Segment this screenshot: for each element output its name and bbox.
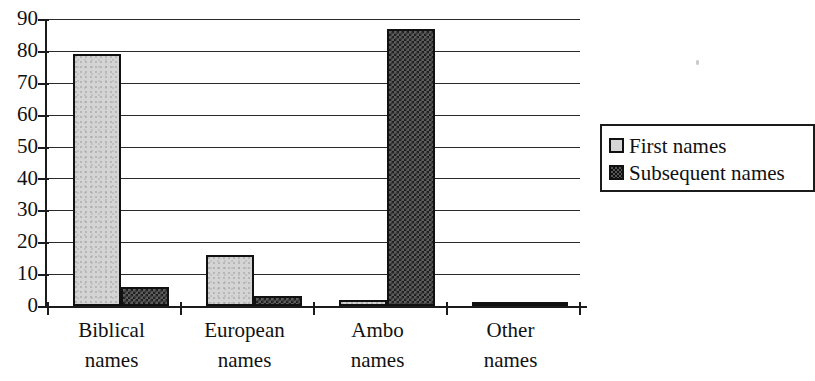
- y-tick-label: 30: [2, 199, 38, 220]
- y-tick-label: 10: [2, 263, 38, 284]
- legend-entry-subsequent-names: Subsequent names: [609, 159, 813, 186]
- scan-artifact: [696, 60, 699, 65]
- legend-swatch-subsequent-names-icon: [609, 165, 624, 180]
- y-tick-label: 90: [2, 8, 38, 29]
- bars-layer: [45, 19, 578, 306]
- y-axis-tick-labels: 90 80 70 60 50 40 30 20 10 0: [0, 0, 38, 381]
- bar-biblical-first-names: [73, 54, 121, 306]
- x-axis-category-labels: Biblical names European names Ambo names…: [45, 315, 578, 381]
- y-tick-label: 20: [2, 231, 38, 252]
- y-tick-label: 60: [2, 104, 38, 125]
- x-axis-baseline: [47, 306, 587, 308]
- x-label-line2: names: [311, 345, 444, 375]
- x-label-ambo-names: Ambo names: [311, 315, 444, 375]
- x-label-line2: names: [178, 345, 311, 375]
- bar-ambo-first-names: [339, 300, 387, 306]
- y-tick-label: 0: [2, 295, 38, 316]
- chart-legend: First names Subsequent names: [600, 124, 815, 192]
- x-label-line1: European: [204, 318, 284, 342]
- x-label-line1: Biblical: [78, 318, 145, 342]
- y-tick-label: 70: [2, 72, 38, 93]
- bar-european-first-names: [206, 255, 254, 306]
- x-label-other-names: Other names: [444, 315, 577, 375]
- bar-biblical-subsequent-names: [121, 287, 169, 306]
- bar-other-first-names: [472, 302, 520, 307]
- legend-entry-first-names: First names: [609, 132, 813, 159]
- bar-european-subsequent-names: [254, 296, 302, 306]
- x-label-biblical-names: Biblical names: [45, 315, 178, 375]
- y-tick-label: 50: [2, 136, 38, 157]
- x-label-line2: names: [444, 345, 577, 375]
- y-tick-label: 80: [2, 40, 38, 61]
- x-label-line1: Ambo: [351, 318, 404, 342]
- x-label-european-names: European names: [178, 315, 311, 375]
- x-axis-end-tick: [579, 302, 581, 315]
- plot-region: 90 80 70 60 50 40 30 20 10 0: [0, 0, 590, 381]
- y-tick-label: 40: [2, 168, 38, 189]
- x-label-line2: names: [45, 345, 178, 375]
- x-label-line1: Other: [487, 318, 535, 342]
- bar-ambo-subsequent-names: [387, 29, 435, 306]
- bar-other-subsequent-names: [520, 302, 568, 306]
- legend-label-first-names: First names: [629, 134, 726, 158]
- legend-swatch-first-names-icon: [609, 138, 624, 153]
- legend-label-subsequent-names: Subsequent names: [629, 161, 785, 185]
